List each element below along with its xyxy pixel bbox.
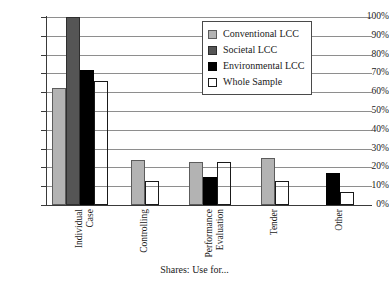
y-axis-tick xyxy=(41,36,47,37)
bar xyxy=(145,181,159,205)
y-axis-tick xyxy=(41,130,47,131)
bar xyxy=(340,192,354,205)
legend-item: Societal LCC xyxy=(208,42,304,58)
y-axis-tick-label: 20% xyxy=(347,162,389,172)
y-axis-tick-label: 10% xyxy=(347,181,389,191)
legend-label: Conventional LCC xyxy=(223,29,299,39)
legend-label: Environmental LCC xyxy=(223,61,304,71)
bar xyxy=(203,177,217,205)
bar-chart: 100%90%80%70%60%50%40%30%20%10%0% Indivi… xyxy=(0,0,389,286)
x-axis-category-label: PerformanceEvaluation xyxy=(204,209,225,258)
y-axis-tick xyxy=(41,73,47,74)
bar xyxy=(217,162,231,205)
x-axis-title: Shares: Use for... xyxy=(0,264,389,275)
y-axis-tick-label: 30% xyxy=(347,144,389,154)
y-axis-tick-label: 60% xyxy=(347,87,389,97)
bar xyxy=(261,158,275,205)
bar xyxy=(131,160,145,205)
y-axis-tick-label: 40% xyxy=(347,125,389,135)
bar xyxy=(52,88,66,205)
y-axis-tick xyxy=(41,111,47,112)
y-axis-tick xyxy=(41,55,47,56)
legend-item: Environmental LCC xyxy=(208,58,304,74)
y-axis-tick-label: 100% xyxy=(347,12,389,22)
legend-swatch-icon xyxy=(208,46,217,55)
y-axis-tick xyxy=(41,186,47,187)
x-axis-category-label: IndividualCase xyxy=(74,209,95,248)
bar xyxy=(326,173,340,205)
y-axis-tick xyxy=(41,92,47,93)
legend-swatch-icon xyxy=(208,30,217,39)
bar xyxy=(189,162,203,205)
y-axis-tick-label: 50% xyxy=(347,106,389,116)
legend-swatch-icon xyxy=(208,78,217,87)
legend-label: Whole Sample xyxy=(223,77,282,87)
chart-legend: Conventional LCCSocietal LCCEnvironmenta… xyxy=(202,21,312,95)
y-axis-tick-label: 70% xyxy=(347,68,389,78)
x-axis-category-label: Other xyxy=(334,209,345,231)
bar xyxy=(66,17,80,205)
bar xyxy=(94,81,108,205)
bar xyxy=(275,181,289,205)
x-axis-line xyxy=(46,205,372,206)
y-axis-tick xyxy=(41,205,47,206)
bar xyxy=(80,70,94,205)
bar-group xyxy=(112,17,177,205)
y-axis-tick xyxy=(41,149,47,150)
legend-item: Conventional LCC xyxy=(208,26,304,42)
y-axis-tick xyxy=(41,17,47,18)
x-axis-category-label: Controlling xyxy=(139,209,150,253)
y-axis-tick xyxy=(41,167,47,168)
legend-label: Societal LCC xyxy=(223,45,277,55)
bar-group xyxy=(47,17,112,205)
y-axis-tick-label: 80% xyxy=(347,50,389,60)
legend-item: Whole Sample xyxy=(208,74,304,90)
legend-swatch-icon xyxy=(208,62,217,71)
x-axis-category-label: Tender xyxy=(269,209,280,235)
y-axis-tick-label: 90% xyxy=(347,31,389,41)
